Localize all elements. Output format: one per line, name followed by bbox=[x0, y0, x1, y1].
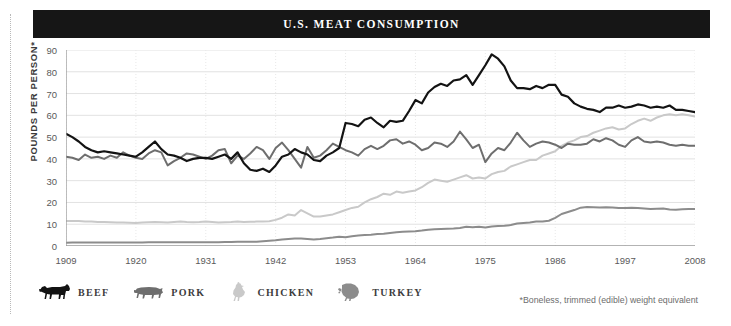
chicken-icon bbox=[227, 282, 251, 302]
chart-footnote: *Boneless, trimmed (edible) weight equiv… bbox=[520, 295, 698, 305]
y-tick-60: 60 bbox=[46, 110, 57, 121]
y-tick-40: 40 bbox=[46, 153, 57, 164]
y-tick-10: 10 bbox=[46, 219, 57, 230]
turkey-icon bbox=[336, 282, 366, 302]
legend-label-pork: PORK bbox=[171, 287, 205, 298]
y-tick-70: 70 bbox=[46, 88, 57, 99]
chart-svg bbox=[66, 50, 695, 246]
legend-label-chicken: CHICKEN bbox=[257, 287, 314, 298]
x-tick-1986: 1986 bbox=[545, 255, 566, 266]
plot-area: 0102030405060708090 19091920193119421953… bbox=[66, 50, 695, 246]
y-tick-90: 90 bbox=[46, 45, 57, 56]
page-title: U.S. MEAT CONSUMPTION bbox=[283, 18, 460, 30]
legend-label-beef: BEEF bbox=[78, 287, 109, 298]
chart-title-bar: U.S. MEAT CONSUMPTION bbox=[33, 10, 710, 38]
x-tick-1964: 1964 bbox=[405, 255, 426, 266]
y-tick-80: 80 bbox=[46, 66, 57, 77]
legend-item-chicken[interactable]: CHICKEN bbox=[227, 282, 314, 302]
y-tick-20: 20 bbox=[46, 197, 57, 208]
x-tick-1953: 1953 bbox=[335, 255, 356, 266]
series-lines bbox=[66, 54, 695, 242]
y-tick-30: 30 bbox=[46, 175, 57, 186]
x-tick-2008: 2008 bbox=[684, 255, 705, 266]
chart-legend: BEEF PORK CHICKEN bbox=[38, 282, 423, 302]
x-tick-1975: 1975 bbox=[475, 255, 496, 266]
legend-item-turkey[interactable]: TURKEY bbox=[336, 282, 423, 302]
legend-item-pork[interactable]: PORK bbox=[131, 283, 205, 301]
x-tick-1931: 1931 bbox=[195, 255, 216, 266]
chart-figure: U.S. MEAT CONSUMPTION POUNDS PER PERSON*… bbox=[0, 0, 731, 326]
x-tick-1942: 1942 bbox=[265, 255, 286, 266]
legend-item-beef[interactable]: BEEF bbox=[38, 283, 109, 301]
x-tick-1997: 1997 bbox=[615, 255, 636, 266]
x-tick-1920: 1920 bbox=[125, 255, 146, 266]
y-axis-label: POUNDS PER PERSON* bbox=[28, 22, 39, 182]
y-tick-50: 50 bbox=[46, 132, 57, 143]
y-tick-0: 0 bbox=[52, 241, 57, 252]
pig-icon bbox=[131, 283, 165, 301]
x-tick-1909: 1909 bbox=[55, 255, 76, 266]
series-line-turkey bbox=[66, 207, 695, 243]
cow-icon bbox=[38, 283, 72, 301]
page-left-rule bbox=[10, 14, 11, 314]
legend-label-turkey: TURKEY bbox=[372, 287, 423, 298]
